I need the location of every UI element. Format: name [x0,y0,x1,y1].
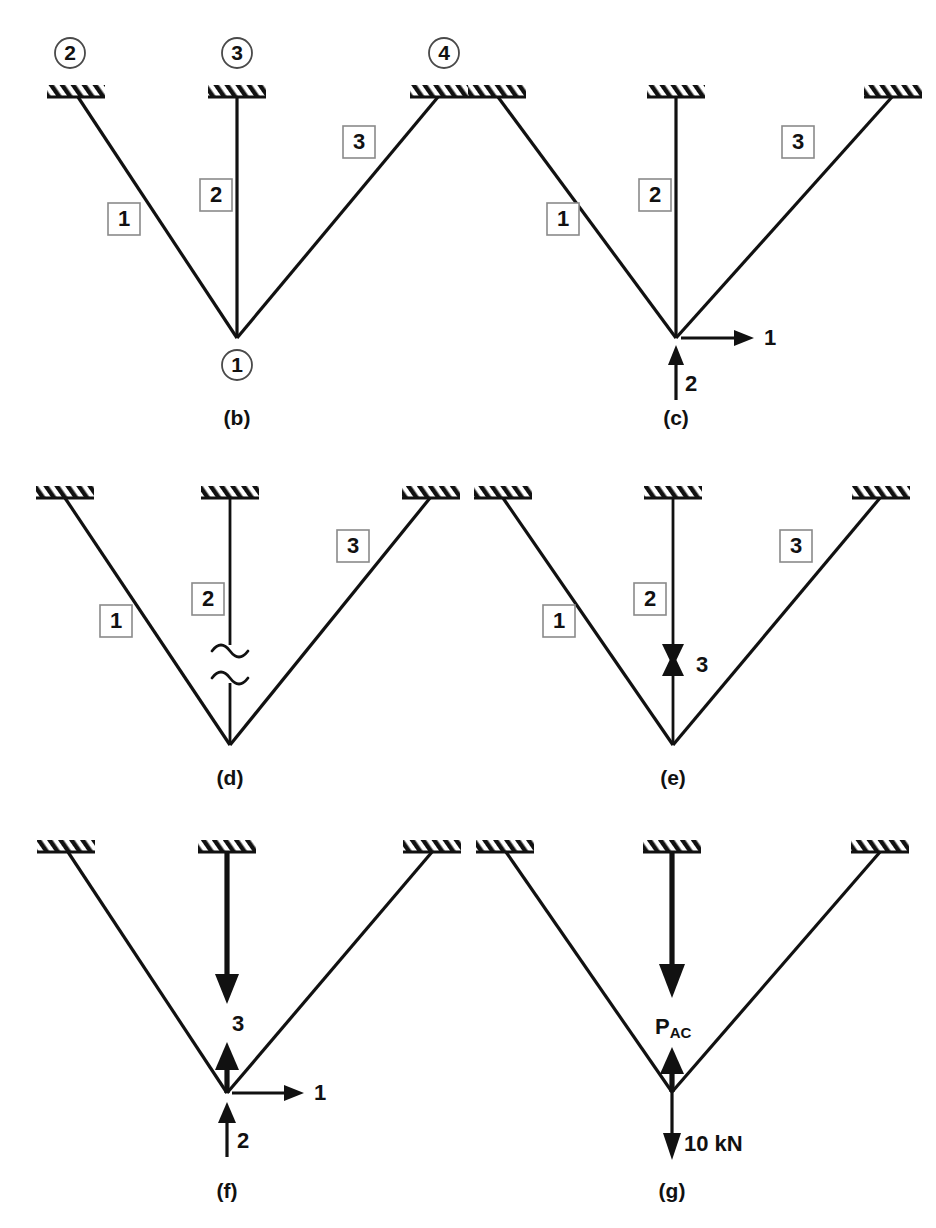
node-label-2-text: 2 [64,41,76,64]
break-mark-lower [212,672,248,684]
caption-f: (f) [217,1179,238,1202]
support-left [47,85,105,97]
force-arrow-horizontal: 1 [681,325,776,350]
force-label-vertical-text: 2 [685,371,697,396]
member-left-diagonal [498,97,676,338]
force-arrow-horizontal: 1 [232,1080,326,1105]
member-label-1: 1 [100,605,132,637]
panel-e: 3 1 2 3 (e) [468,440,936,840]
support-right [864,85,922,97]
node-label-2: 2 [55,38,85,68]
support-center [647,85,705,97]
panel-g: PAC 10 kN (g) [468,820,936,1228]
force-arrow-vertical: 2 [218,1102,249,1157]
arrow-head-up [662,653,684,676]
caption-c: (c) [663,406,689,429]
member-label-3: 3 [337,530,369,562]
caption-g: (g) [659,1179,686,1202]
member-label-2-text: 2 [644,586,656,611]
force-arrow-up-joint [660,1047,684,1092]
member-left-diagonal [65,498,230,745]
support-left [474,486,532,498]
force-label-horizontal-text: 1 [314,1080,326,1105]
node-label-3-text: 3 [231,41,243,64]
member-left-diagonal [503,498,673,745]
force-label-vertical-text: 2 [237,1128,249,1153]
force-label-horizontal-text: 1 [764,325,776,350]
force-arrow-load: 10 kN [663,1092,743,1160]
member-label-1: 1 [543,605,575,637]
member-label-3-text: 3 [792,129,804,154]
force-label-3-text: 3 [696,652,708,677]
member-label-3: 3 [343,126,375,158]
member-label-2: 2 [200,179,232,211]
support-left [468,85,526,97]
force-arrow-vertical: 2 [668,345,697,400]
support-right [852,486,910,498]
force-label-pac-subscript: AC [670,1024,692,1041]
caption-e: (e) [660,766,686,789]
member-label-2: 2 [634,583,666,615]
support-right [851,840,909,852]
member-label-1-text: 1 [557,206,569,231]
support-left [476,840,534,852]
member-label-1: 1 [547,203,579,235]
member-label-3-text: 3 [347,533,359,558]
member-label-3-text: 3 [353,129,365,154]
member-label-1-text: 1 [118,206,130,231]
node-label-1-text: 1 [231,353,243,376]
member-label-3: 3 [780,530,812,562]
caption-d: (d) [217,766,244,789]
member-right-diagonal [672,852,880,1092]
member-label-2-text: 2 [649,182,661,207]
member-label-3: 3 [782,126,814,158]
force-label-pac-text: PAC [655,1014,692,1041]
member-label-2-text: 2 [202,586,214,611]
support-center [208,85,266,97]
support-right [402,486,460,498]
member-label-1-text: 1 [110,608,122,633]
panel-c: 1 2 3 1 2 (c) [468,0,936,440]
panel-d: 1 2 3 (d) [0,440,468,840]
break-mark-upper [212,645,248,657]
support-center [643,840,701,852]
member-label-3-text: 3 [790,533,802,558]
member-right-diagonal [230,498,430,745]
support-left [37,840,95,852]
node-label-4: 4 [429,38,459,68]
member-label-2-text: 2 [210,182,222,207]
member-right-diagonal [237,97,438,338]
node-label-3: 3 [222,38,252,68]
member-left-diagonal [506,852,672,1092]
support-left [36,486,94,498]
support-center [201,486,259,498]
force-label-3-text: 3 [232,1011,244,1036]
member-label-1-text: 1 [553,608,565,633]
figure-root: 2 3 4 1 1 2 3 (b) [0,0,936,1228]
support-right [410,85,468,97]
force-label-pac-main: P [655,1014,670,1039]
panel-b: 2 3 4 1 1 2 3 (b) [0,0,468,440]
node-label-1: 1 [222,350,252,380]
member-right-diagonal [227,852,432,1093]
force-label-load-text: 10 kN [684,1131,743,1156]
force-arrow-down-pac: PAC [655,852,692,1041]
force-arrow-opposed-pair: 3 [662,644,708,677]
member-label-1: 1 [108,203,140,235]
support-center [644,486,702,498]
support-right [403,840,461,852]
support-center [198,840,256,852]
member-left-diagonal [68,852,227,1093]
member-label-2: 2 [639,179,671,211]
caption-b: (b) [224,406,251,429]
member-left-diagonal [78,97,237,338]
member-right-diagonal [673,498,880,745]
member-label-2: 2 [192,583,224,615]
force-arrow-down-3: 3 [215,852,244,1036]
panel-f: 3 1 2 (f) [0,820,468,1228]
node-label-4-text: 4 [438,41,450,64]
